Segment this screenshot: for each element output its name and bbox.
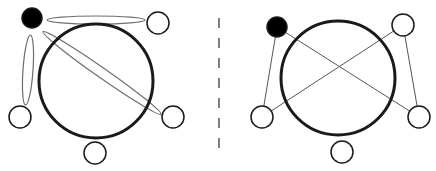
right-panel-node-bottom xyxy=(331,141,353,163)
left-panel-node-bottom-right xyxy=(162,106,184,128)
right-panel-edge-top-right-bottom-left xyxy=(262,25,403,117)
right-panel-node-top-right xyxy=(392,14,414,36)
right-panel-edge-filled-bottom-right xyxy=(277,27,419,117)
right-panel-big-circle xyxy=(281,21,395,135)
left-panel-ellipse-filled-to-bottom-right xyxy=(40,28,164,119)
right-panel-node-bottom-right xyxy=(408,106,430,128)
left-panel-node-filled xyxy=(22,8,42,28)
left-panel-node-top-right xyxy=(147,12,169,34)
diagram-svg xyxy=(0,0,436,171)
left-panel-ellipse-filled-to-bottom-left xyxy=(21,35,36,106)
left-panel-node-bottom-left xyxy=(9,106,31,128)
left-panel-big-circle xyxy=(39,24,153,138)
right-panel-edge-filled-bottom-left xyxy=(262,27,277,117)
right-panel-node-filled xyxy=(267,17,287,37)
left-panel-node-bottom xyxy=(84,142,106,164)
diagram-canvas xyxy=(0,0,436,171)
right-panel-edge-top-right-bottom-right xyxy=(403,25,419,117)
right-panel-node-bottom-left xyxy=(251,106,273,128)
